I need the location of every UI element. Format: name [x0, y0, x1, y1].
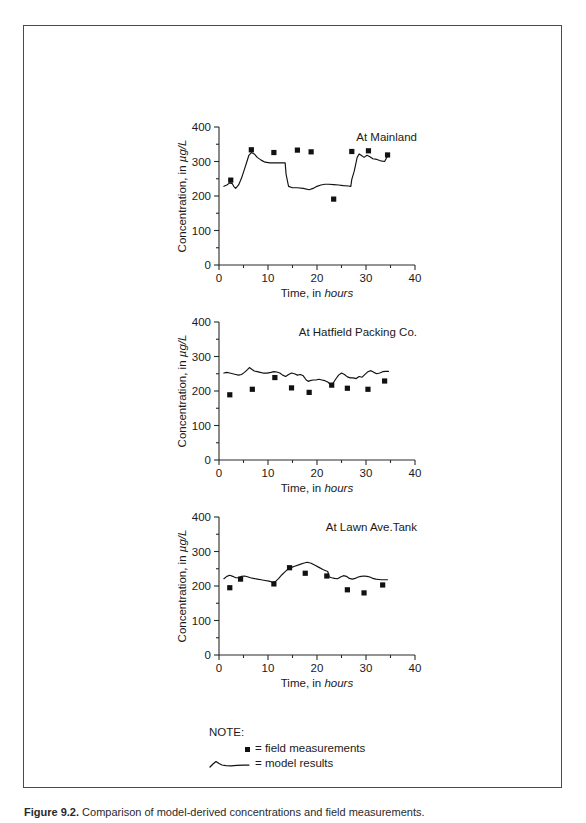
x-tick-label: 10: [262, 467, 275, 479]
legend-row-field-measurements: = field measurements: [209, 742, 509, 757]
y-axis-title: Concentration, in µg/L: [176, 140, 188, 253]
y-tick-label: 100: [192, 420, 211, 432]
figure-caption: Figure 9.2. Comparison of model-derived …: [24, 805, 564, 823]
panel-title: At Hatfield Packing Co.: [299, 326, 417, 338]
field-measurement-point: [324, 573, 329, 578]
field-measurement-point: [250, 387, 255, 392]
field-measurement-point: [382, 378, 387, 383]
chart-svg: 0100200300400010203040At MainlandTime, i…: [23, 103, 562, 299]
x-tick-label: 40: [409, 467, 422, 479]
x-tick-label: 20: [311, 467, 324, 479]
chart-panel-at-lawn-ave-tank: 0100200300400010203040At Lawn Ave.TankTi…: [23, 493, 562, 689]
field-measurement-point: [227, 392, 232, 397]
y-axis-title: Concentration, in µg/L: [176, 335, 188, 448]
y-tick-label: 0: [205, 454, 211, 466]
x-tick-label: 0: [216, 662, 222, 674]
field-measurement-point: [287, 565, 292, 570]
figure-page: 0100200300400010203040At MainlandTime, i…: [0, 0, 586, 823]
caption-text: Comparison of model-derived concentratio…: [82, 806, 424, 818]
x-tick-label: 30: [360, 662, 373, 674]
field-measurement-marker-icon: [209, 747, 255, 752]
x-tick-label: 40: [409, 272, 422, 284]
field-measurement-point: [307, 390, 312, 395]
chart-panel-at-mainland: 0100200300400010203040At MainlandTime, i…: [23, 103, 562, 299]
x-tick-label: 0: [216, 467, 222, 479]
field-measurement-point: [365, 387, 370, 392]
x-tick-label: 10: [262, 662, 275, 674]
y-tick-label: 400: [192, 511, 211, 523]
y-tick-label: 100: [192, 615, 211, 627]
x-tick-label: 10: [262, 272, 275, 284]
field-measurement-point: [238, 577, 243, 582]
y-tick-label: 300: [192, 351, 211, 363]
field-measurement-point: [385, 152, 390, 157]
y-tick-label: 300: [192, 156, 211, 168]
panel-title: At Mainland: [356, 131, 417, 143]
y-tick-label: 200: [192, 385, 211, 397]
x-axis-title: Time, in hours: [281, 677, 354, 689]
field-measurement-point: [271, 581, 276, 586]
y-tick-label: 0: [205, 649, 211, 661]
field-measurement-point: [366, 148, 371, 153]
x-tick-label: 20: [311, 662, 324, 674]
x-tick-label: 0: [216, 272, 222, 284]
legend-row-model-results: = model results: [209, 757, 509, 772]
field-measurement-point: [309, 149, 314, 154]
y-axis-title: Concentration, in µg/L: [176, 530, 188, 643]
chart-panel-at-hatfield-packing-co: 0100200300400010203040At Hatfield Packin…: [23, 298, 562, 494]
field-measurement-point: [349, 149, 354, 154]
field-measurement-point: [361, 590, 366, 595]
model-results-line-icon: [209, 758, 255, 770]
y-tick-label: 400: [192, 121, 211, 133]
field-measurement-point: [227, 585, 232, 590]
x-tick-label: 20: [311, 272, 324, 284]
x-tick-label: 30: [360, 467, 373, 479]
field-measurement-point: [303, 571, 308, 576]
y-tick-label: 200: [192, 580, 211, 592]
field-measurement-point: [380, 582, 385, 587]
axis-lines: [219, 322, 415, 460]
y-tick-label: 0: [205, 259, 211, 271]
field-measurement-point: [345, 587, 350, 592]
panel-title: At Lawn Ave.Tank: [326, 521, 417, 533]
chart-svg: 0100200300400010203040At Lawn Ave.TankTi…: [23, 493, 562, 689]
field-measurement-point: [249, 147, 254, 152]
y-tick-label: 300: [192, 546, 211, 558]
field-measurement-point: [228, 178, 233, 183]
x-tick-label: 40: [409, 662, 422, 674]
caption-label: Figure 9.2.: [24, 806, 79, 818]
chart-svg: 0100200300400010203040At Hatfield Packin…: [23, 298, 562, 494]
field-measurement-point: [345, 386, 350, 391]
axis-lines: [219, 127, 415, 265]
field-measurement-point: [272, 375, 277, 380]
model-results-line: [224, 153, 388, 190]
y-tick-label: 200: [192, 190, 211, 202]
field-measurement-point: [329, 383, 334, 388]
model-results-line: [224, 368, 389, 385]
field-measurement-point: [271, 150, 276, 155]
legend-note-label: NOTE:: [209, 725, 509, 741]
y-tick-label: 400: [192, 316, 211, 328]
field-measurement-point: [295, 148, 300, 153]
legend: NOTE: = field measurements = model resul…: [209, 725, 509, 772]
field-measurement-point: [331, 197, 336, 202]
figure-area: 0100200300400010203040At MainlandTime, i…: [23, 25, 562, 788]
legend-field-label: = field measurements: [255, 741, 365, 757]
field-measurement-point: [289, 385, 294, 390]
axis-lines: [219, 517, 415, 655]
y-tick-label: 100: [192, 225, 211, 237]
x-tick-label: 30: [360, 272, 373, 284]
legend-model-label: = model results: [255, 756, 333, 772]
